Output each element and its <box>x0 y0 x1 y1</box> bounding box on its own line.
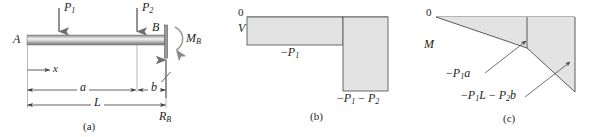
load-p2-label: P2 <box>142 1 153 15</box>
dimension-l-label: L <box>91 96 104 108</box>
panel-a-caption: (a) <box>83 120 95 132</box>
shear-label-segment-1: −P1 <box>281 46 299 60</box>
panel-c-moment-diagram <box>436 17 575 97</box>
load-p1-label: P1 <box>64 1 75 15</box>
shear-zero-label: 0 <box>238 7 244 18</box>
moment-axis-symbol: M <box>424 38 434 50</box>
point-a-label: A <box>13 33 20 45</box>
moment-label-p1a: −P1a <box>446 67 470 81</box>
point-b-label: B <box>152 21 159 33</box>
panel-c-caption: (c) <box>503 112 515 124</box>
panel-a-beam <box>27 8 183 108</box>
moment-mb-label: MB <box>186 32 201 46</box>
dimension-b-label: b <box>148 81 160 93</box>
moment-mb-arrow <box>175 27 183 50</box>
coordinate-x-label: x <box>53 63 58 74</box>
moment-label-p1l-p2b: −P1L − P2b <box>461 89 516 103</box>
panel-b-caption: (b) <box>310 110 323 122</box>
fixed-support-wall <box>165 25 168 58</box>
beam-body <box>27 35 165 45</box>
leader-line-p1a <box>485 41 526 73</box>
shear-axis-symbol: V <box>238 22 245 34</box>
panel-b-shear-diagram <box>247 17 388 91</box>
shear-block-segment-2 <box>343 17 388 91</box>
dimension-a-label: a <box>77 81 89 93</box>
shear-label-segment-2: −P1 − P2 <box>337 92 379 106</box>
reaction-rb-label: RB <box>159 110 171 124</box>
moment-zero-label: 0 <box>426 7 432 18</box>
shear-block-segment-1 <box>247 17 343 45</box>
